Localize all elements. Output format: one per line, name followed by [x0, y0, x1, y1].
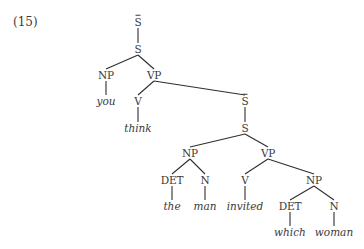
- word-woman: woman: [315, 227, 353, 238]
- node-n1: N: [201, 175, 210, 186]
- node-label: VP: [261, 148, 275, 159]
- node-label: DET: [279, 201, 302, 212]
- node-label: woman: [315, 227, 353, 238]
- node-label: N: [330, 201, 339, 212]
- node-det2: DET: [279, 201, 302, 212]
- node-det1: DET: [161, 175, 184, 186]
- tree-edge: [106, 55, 138, 69]
- node-label: DET: [161, 175, 184, 186]
- node-label: which: [274, 227, 306, 238]
- node-label: S: [135, 17, 142, 28]
- tree-edge: [290, 186, 314, 200]
- word-invited: invited: [227, 201, 264, 212]
- node-sbar1: S: [135, 17, 142, 28]
- node-s1: S: [135, 44, 142, 55]
- node-label: NP: [98, 70, 114, 81]
- node-np1: NP: [98, 70, 114, 81]
- word-you: you: [96, 96, 115, 107]
- tree-edge: [190, 134, 245, 147]
- node-v1: V: [134, 96, 141, 107]
- node-label: V: [241, 175, 248, 186]
- word-the: the: [163, 201, 180, 212]
- node-label: N: [201, 175, 210, 186]
- word-which: which: [274, 227, 306, 238]
- word-man: man: [194, 201, 217, 212]
- node-label: NP: [182, 148, 198, 159]
- node-label: invited: [227, 201, 264, 212]
- tree-edge: [190, 159, 205, 174]
- node-label: think: [124, 123, 151, 134]
- tree-edge: [154, 81, 245, 95]
- node-v2: V: [241, 175, 248, 186]
- node-label: S: [135, 44, 142, 55]
- node-label: NP: [306, 175, 322, 186]
- node-n2: N: [330, 201, 339, 212]
- node-vp1: VP: [147, 70, 161, 81]
- syntax-tree: SSNPVPyouVthinkSSNPVPDETNVNPthemaninvite…: [0, 0, 364, 249]
- tree-edges: [0, 0, 364, 249]
- node-np3: NP: [306, 175, 322, 186]
- node-label: VP: [147, 70, 161, 81]
- node-label: man: [194, 201, 217, 212]
- node-label: S: [242, 96, 249, 107]
- tree-edge: [245, 159, 268, 174]
- tree-edge: [268, 159, 314, 174]
- node-label: S: [242, 123, 249, 134]
- tree-edge: [245, 134, 268, 147]
- node-sbar2: S: [242, 96, 249, 107]
- node-np2: NP: [182, 148, 198, 159]
- node-label: you: [96, 96, 115, 107]
- node-vp2: VP: [261, 148, 275, 159]
- tree-edge: [314, 186, 334, 200]
- node-label: the: [163, 201, 180, 212]
- tree-edge: [138, 81, 154, 95]
- node-label: V: [134, 96, 141, 107]
- node-s2: S: [242, 123, 249, 134]
- tree-edge: [172, 159, 190, 174]
- word-think: think: [124, 123, 151, 134]
- tree-edge: [138, 55, 154, 69]
